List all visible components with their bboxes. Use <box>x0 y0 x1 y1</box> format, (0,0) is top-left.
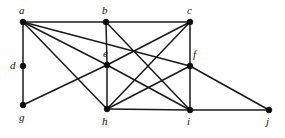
graph-vertex-a <box>20 19 26 25</box>
edge-layer <box>23 22 269 110</box>
graph-edge-a-h <box>23 22 107 109</box>
graph-vertex-j <box>266 107 272 113</box>
vertex-label-g: g <box>19 112 25 123</box>
vertex-label-h: h <box>102 116 108 127</box>
graph-figure: abcdefghij <box>0 0 285 138</box>
graph-edge-f-j <box>190 66 269 110</box>
graph-edge-h-i <box>107 109 190 110</box>
vertex-label-e: e <box>103 48 108 59</box>
graph-canvas <box>0 0 285 138</box>
vertex-label-f: f <box>193 49 196 60</box>
vertex-label-b: b <box>102 5 108 16</box>
vertex-label-c: c <box>187 5 192 16</box>
graph-vertex-b <box>103 19 109 25</box>
graph-vertex-f <box>187 63 193 69</box>
graph-edge-c-e <box>107 22 190 65</box>
vertex-label-i: i <box>187 116 190 127</box>
graph-vertex-c <box>187 19 193 25</box>
graph-vertex-d <box>20 63 26 69</box>
graph-edge-g-e <box>23 65 107 105</box>
graph-vertex-e <box>104 62 110 68</box>
graph-vertex-h <box>104 106 110 112</box>
vertex-label-a: a <box>19 5 25 16</box>
graph-vertex-g <box>20 102 26 108</box>
vertex-label-j: j <box>266 116 269 127</box>
graph-edge-a-e <box>23 22 107 65</box>
vertex-layer <box>20 19 272 113</box>
graph-vertex-i <box>187 107 193 113</box>
vertex-label-d: d <box>10 60 16 71</box>
